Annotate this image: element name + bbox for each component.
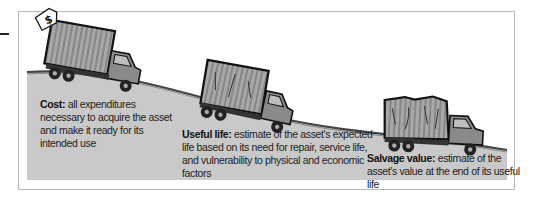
useful-life-caption: Useful life: estimate of the asset's exp… (182, 128, 382, 180)
useful-life-term: Useful life: (182, 128, 231, 140)
cost-term: Cost: (40, 98, 65, 110)
salvage-value-term: Salvage value: (367, 152, 435, 164)
cost-caption: Cost: all expenditures necessary to acqu… (40, 98, 180, 150)
salvage-value-caption: Salvage value: estimate of the asset's v… (367, 152, 527, 191)
